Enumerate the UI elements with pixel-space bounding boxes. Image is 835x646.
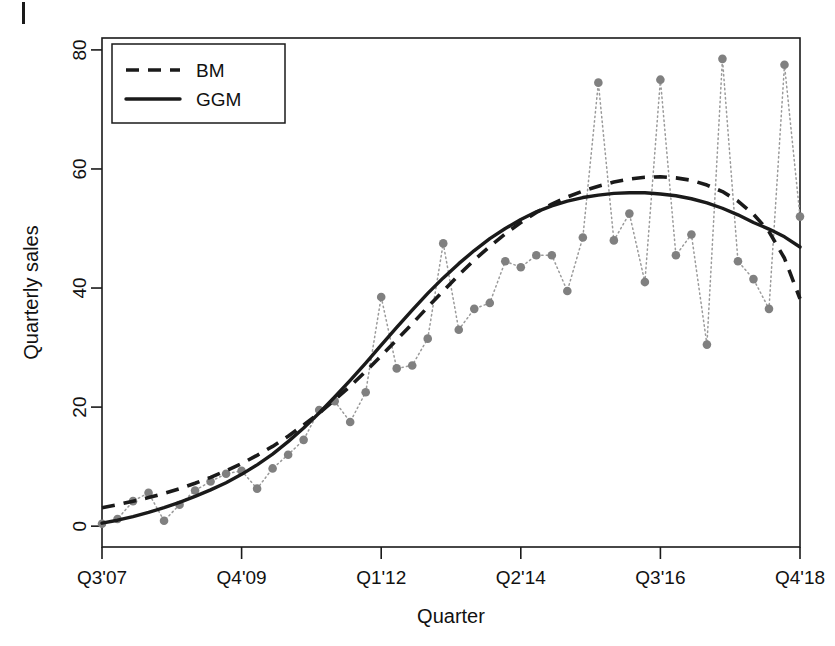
observed-data-point — [423, 334, 432, 343]
series-group — [98, 55, 805, 529]
observed-data-point — [501, 257, 510, 266]
observed-data-point — [408, 361, 417, 370]
observed-data-point — [765, 305, 774, 314]
chart-legend: BMGGM — [112, 44, 285, 123]
observed-data-point — [579, 233, 588, 242]
x-axis-tick-label: Q4'18 — [775, 567, 825, 588]
bm-series-line — [102, 177, 800, 508]
observed-data-point — [392, 364, 401, 373]
observed-data-point — [299, 436, 308, 445]
observed-data-point — [268, 464, 277, 473]
x-axis-tick-label: Q2'14 — [496, 567, 547, 588]
x-axis-title: Quarter — [417, 605, 485, 627]
x-axis-tick-label: Q4'09 — [217, 567, 267, 588]
observed-data-point — [687, 230, 696, 239]
observed-data-point — [485, 299, 494, 308]
legend-box — [112, 44, 285, 123]
x-axis-tick-label: Q3'16 — [635, 567, 685, 588]
legend-label-bm: BM — [196, 60, 225, 81]
observed-data-point — [594, 78, 603, 87]
observed-series-connector — [102, 59, 800, 524]
x-axis-tick-label: Q3'07 — [77, 567, 127, 588]
chart-figure: 020406080Q3'07Q4'09Q1'12Q2'14Q3'16Q4'18 … — [0, 0, 835, 646]
observed-data-point — [517, 263, 526, 272]
y-axis-tick-label: 80 — [70, 39, 91, 60]
observed-data-point — [346, 418, 355, 427]
observed-data-point — [470, 305, 479, 314]
y-axis-title: Quarterly sales — [20, 225, 42, 360]
observed-data-point — [361, 388, 370, 397]
observed-data-point — [610, 236, 619, 245]
y-axis-tick-label: 20 — [70, 397, 91, 418]
observed-data-point — [749, 275, 758, 284]
observed-data-point — [284, 450, 293, 459]
observed-data-point — [734, 257, 743, 266]
observed-data-point — [253, 484, 262, 493]
observed-data-point — [641, 278, 650, 287]
legend-label-ggm: GGM — [196, 89, 241, 110]
observed-data-point — [780, 60, 789, 69]
observed-data-point — [718, 55, 727, 64]
y-axis-tick-label: 40 — [70, 277, 91, 298]
y-axis-tick-label: 0 — [70, 521, 91, 532]
observed-data-point — [563, 287, 572, 296]
observed-data-point — [656, 75, 665, 84]
observed-data-point — [160, 517, 169, 526]
observed-data-point — [796, 212, 805, 221]
ggm-series-line — [102, 193, 800, 523]
observed-data-point — [548, 251, 557, 260]
observed-data-point — [439, 239, 448, 248]
observed-data-point — [454, 325, 463, 334]
observed-data-point — [625, 209, 634, 218]
quarterly-sales-chart: 020406080Q3'07Q4'09Q1'12Q2'14Q3'16Q4'18 … — [0, 0, 835, 646]
y-axis-tick-label: 60 — [70, 158, 91, 179]
observed-data-point — [532, 251, 541, 260]
page-margin-tick-mark — [22, 2, 25, 24]
observed-data-point — [672, 251, 681, 260]
observed-data-point — [377, 293, 386, 302]
observed-data-point — [703, 340, 712, 349]
x-axis-tick-label: Q1'12 — [356, 567, 406, 588]
